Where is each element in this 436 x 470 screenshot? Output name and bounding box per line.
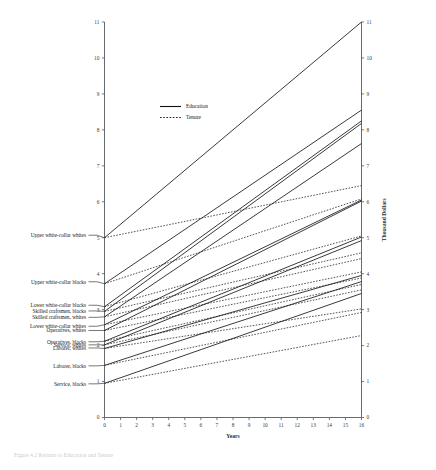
series-line [105, 110, 362, 284]
y-tick-label-left: 6 [97, 199, 100, 205]
x-tick-label: 14 [327, 422, 333, 428]
series-line [105, 290, 362, 345]
x-tick-label: 12 [295, 422, 301, 428]
y-tick-label-left: 4 [97, 271, 100, 277]
y-tick-label-left: 9 [97, 91, 100, 97]
y-axis-right-ticks: 01234567891011 [362, 19, 373, 421]
figure-container: Upper white-collar whitesUpper white-col… [0, 0, 436, 470]
y-tick-label-left: 3 [97, 307, 100, 313]
group-label: Skilled craftsmen, whites [32, 314, 86, 320]
series-line [105, 336, 362, 384]
series-line [105, 278, 362, 330]
y-tick-label-left: 8 [97, 127, 100, 133]
group-label: Laborer, whites [53, 345, 86, 351]
y-tick-label-left: 11 [94, 19, 99, 25]
x-tick-label: 13 [311, 422, 317, 428]
y-tick-label-left: 7 [97, 163, 100, 169]
returns-to-education-and-tenure-chart: Upper white-collar whitesUpper white-col… [0, 0, 436, 470]
y-tick-label-left: 5 [97, 235, 100, 241]
y-tick-label-right: 10 [367, 55, 373, 61]
y-tick-label-right: 2 [367, 342, 370, 348]
label-leader-line [89, 365, 105, 366]
label-leader-line [89, 325, 105, 327]
y-tick-label-left: 10 [94, 55, 100, 61]
series-line [105, 241, 362, 345]
series-line [105, 313, 362, 366]
data-series-layer [105, 22, 362, 383]
label-leader-line [89, 282, 105, 284]
series-line [105, 123, 362, 311]
x-tick-label: 2 [135, 422, 138, 428]
y-tick-label-right: 5 [367, 235, 370, 241]
chart-legend: Education Tenure [160, 103, 208, 120]
y-tick-label-right: 1 [367, 378, 370, 384]
series-line [105, 259, 362, 317]
x-tick-label: 4 [167, 422, 170, 428]
series-line [105, 282, 362, 366]
y-tick-label-right: 8 [367, 127, 370, 133]
figure-caption: Figure 4.2 Returns to Education and Tenu… [14, 452, 113, 458]
series-line [105, 201, 362, 330]
y-tick-label-right: 7 [367, 163, 370, 169]
x-tick-label: 11 [279, 422, 284, 428]
series-line [105, 200, 362, 325]
axes-layer [105, 22, 362, 418]
series-line [105, 121, 362, 307]
x-tick-label: 10 [262, 422, 268, 428]
x-axis-title: Years [226, 433, 240, 439]
group-label: Operatives, whites [47, 327, 86, 333]
y-tick-label-right: 11 [367, 19, 372, 25]
x-tick-label: 6 [200, 422, 203, 428]
y-tick-label-right: 0 [367, 414, 370, 420]
label-leader-line [89, 317, 105, 318]
y-tick-label-left: 1 [97, 378, 100, 384]
x-tick-label: 8 [232, 422, 235, 428]
y-tick-label-right: 6 [367, 199, 370, 205]
legend-label-tenure: Tenure [186, 114, 201, 120]
series-line [105, 237, 362, 341]
group-label: Skilled craftsmen, blacks [33, 308, 86, 314]
legend-label-education: Education [186, 103, 208, 109]
group-label: Upper white-collar blacks [31, 279, 86, 285]
y-axis-title: Thousand Dollars [381, 198, 387, 242]
y-tick-label-left: 2 [97, 342, 100, 348]
series-line [105, 253, 362, 312]
series-line [105, 22, 362, 238]
x-tick-label: 1 [119, 422, 122, 428]
x-tick-label: 16 [359, 422, 365, 428]
y-axis-left-ticks: 01234567891011 [94, 19, 104, 421]
x-tick-label: 15 [343, 422, 349, 428]
y-tick-label-right: 3 [367, 307, 370, 313]
x-axis-ticks: 012345678910111213141516 [103, 418, 364, 428]
group-label-layer: Upper white-collar whitesUpper white-col… [30, 232, 86, 387]
group-label: Upper white-collar whites [31, 232, 86, 238]
y-tick-label-right: 4 [367, 271, 370, 277]
x-tick-label: 0 [103, 422, 106, 428]
x-tick-label: 3 [151, 422, 154, 428]
series-line [105, 275, 362, 348]
y-tick-label-right: 9 [367, 91, 370, 97]
group-label: Laborer, blacks [53, 363, 86, 369]
series-line [105, 293, 362, 383]
x-tick-label: 9 [248, 422, 251, 428]
group-label: Service, blacks [54, 381, 86, 387]
y-tick-label-left: 0 [97, 414, 100, 420]
x-tick-label: 5 [183, 422, 186, 428]
x-tick-label: 7 [216, 422, 219, 428]
